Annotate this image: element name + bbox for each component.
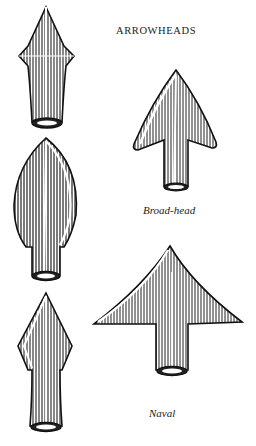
- naval-arrowhead-illustration: [92, 244, 248, 378]
- arrowheads-plate: ARROWHEADS: [0, 0, 256, 446]
- broad-head-arrowhead-illustration: [128, 66, 224, 192]
- caption-broad-head: Broad-head: [143, 204, 195, 216]
- caption-naval: Naval: [149, 407, 175, 419]
- bodkin-arrowhead-illustration: [14, 4, 84, 134]
- plate-title: ARROWHEADS: [116, 25, 196, 36]
- diamond-arrowhead-illustration: [14, 290, 80, 440]
- leaf-arrowhead-illustration: [8, 135, 84, 285]
